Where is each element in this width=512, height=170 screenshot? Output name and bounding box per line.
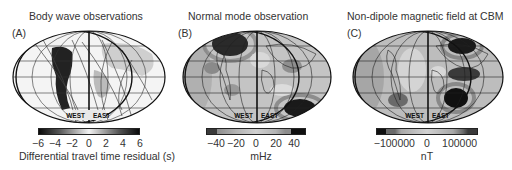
tick: 100000 [442,137,477,149]
panel-c-colorbar-ticks: −100000 0 100000 [376,137,478,149]
tick: 0 [424,137,430,149]
panel-c-colorbar-label: nT [421,150,433,162]
panel-c-world-map: WEST EAST [352,30,504,124]
panel-c-colorbar [376,128,478,135]
panel-c-title: Non-dipole magnetic field at CBM [347,10,503,22]
panel-c-west-label: WEST [405,112,424,119]
panel-c-east-label: EAST [432,112,449,119]
tick: −100000 [374,137,415,149]
panel-c-magnetic-field: Non-dipole magnetic field at CBM (C) [0,0,512,170]
